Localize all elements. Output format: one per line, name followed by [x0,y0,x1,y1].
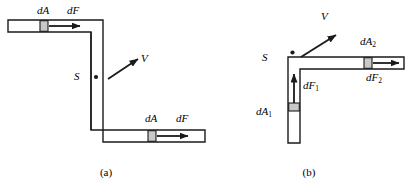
caption-panel-b: (b) [297,166,321,178]
label-da-upper-a: dA [37,4,49,16]
figure-canvas: dA dF dA dF V S dA1 dF1 dA2 dF2 V S (a) … [0,0,413,191]
label-df2-b-sub: 2 [378,76,382,85]
da-band-upper-a [40,21,48,32]
caption-panel-a: (a) [94,166,118,178]
label-df-lower-a: dF [176,112,188,124]
da-band-lower-a [148,131,156,142]
label-da1-b-sub: 1 [268,110,272,119]
label-da2-b-base: dA [360,35,372,47]
label-da2-b-sub: 2 [372,40,376,49]
velocity-arrow-b [301,35,336,57]
label-da1-b-base: dA [256,105,268,117]
label-surface-b: S [262,51,268,63]
label-df-upper-a: dF [67,4,79,16]
label-df2-b: dF2 [366,71,382,85]
label-velocity-b: V [321,10,328,22]
label-df1-b-base: dF [303,79,315,91]
da1-band-b [289,103,300,111]
label-da1-b: dA1 [256,105,272,119]
tube-b-outline [288,57,404,143]
surface-point-dot-b [290,50,294,54]
da2-band-b [364,58,372,69]
figure-svg [0,0,413,191]
label-velocity-a: V [141,52,148,64]
label-da-lower-a: dA [145,112,157,124]
label-da2-b: dA2 [360,35,376,49]
surface-point-dot-a [94,75,98,79]
label-df2-b-base: dF [366,71,378,83]
label-df1-b: dF1 [303,79,319,93]
tube-b-path [288,57,404,143]
velocity-arrow-a [108,59,138,79]
label-surface-a: S [74,70,80,82]
label-df1-b-sub: 1 [315,84,319,93]
